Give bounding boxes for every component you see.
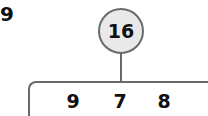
problem-number: 9	[0, 4, 14, 24]
connector-line	[120, 52, 122, 82]
whole-circle: 16	[98, 8, 144, 54]
whole-value: 16	[108, 22, 134, 41]
part-value: 8	[154, 92, 174, 111]
part-value: 7	[110, 92, 130, 111]
part-value: 9	[63, 92, 83, 111]
